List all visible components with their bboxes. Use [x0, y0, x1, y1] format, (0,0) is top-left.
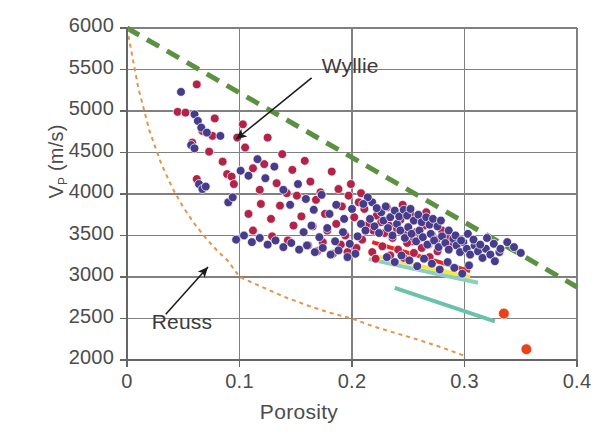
chart-figure: VP (m/s) Porosity 2000250030003500400045… — [0, 0, 598, 445]
y-tick-label-4500: 4500 — [22, 139, 114, 162]
y-tick-label-2500: 2500 — [22, 305, 114, 328]
x-axis-label: Porosity — [0, 400, 598, 424]
annotation-reuss: Reuss — [152, 310, 213, 334]
y-tick-label-6000: 6000 — [22, 14, 114, 37]
annotation-wyllie: Wyllie — [322, 54, 379, 78]
y-tick-label-5000: 5000 — [22, 97, 114, 120]
y-tick-label-3500: 3500 — [22, 222, 114, 245]
y-tick-label-5500: 5500 — [22, 56, 114, 79]
x-tick-label-0-4: 0.4 — [542, 370, 598, 393]
x-tick-label-0-2: 0.2 — [317, 370, 387, 393]
x-tick-label-0-1: 0.1 — [205, 370, 275, 393]
x-tick-label-0: 0 — [92, 370, 162, 393]
y-tick-label-2000: 2000 — [22, 346, 114, 369]
y-tick-label-3000: 3000 — [22, 263, 114, 286]
x-tick-label-0-3: 0.3 — [430, 370, 500, 393]
y-tick-label-4000: 4000 — [22, 180, 114, 203]
